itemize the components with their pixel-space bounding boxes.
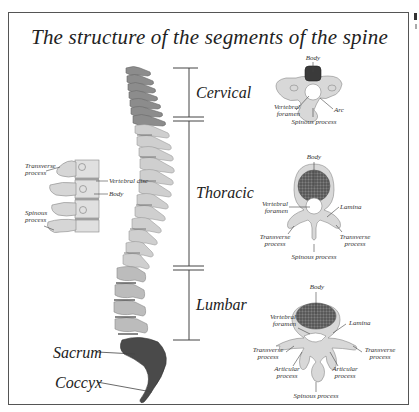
label-side-transverse-process: Transverse process	[25, 163, 57, 177]
label-cervical-arc: Arc	[334, 107, 354, 114]
label-lumbar-transverse-process-right: Transverse process	[362, 347, 398, 361]
label-thoracic-vertebral-foramen: Vertebral foramen	[254, 201, 288, 215]
label-lumbar-transverse-process-left: Transverse process	[250, 347, 286, 361]
label-lumbar-articular-process-right: Articular process	[330, 366, 360, 380]
sacrum-shape	[120, 337, 166, 402]
label-coccyx: Coccyx	[55, 374, 102, 392]
label-cervical-body: Body	[298, 55, 328, 62]
label-lumbar-body: Body	[302, 284, 332, 291]
label-lumbar-vertebral-foramen: Vertebral foramen	[262, 314, 296, 328]
label-cervical-vertebral-foramen: Vertebral foramen	[266, 104, 300, 118]
region-label-cervical: Cervical	[196, 84, 251, 102]
thoracic-vertebra	[288, 162, 343, 252]
label-lumbar-lamina: Lamina	[349, 320, 379, 327]
region-label-thoracic: Thoracic	[196, 184, 254, 202]
label-side-spinous-process: Spinous process	[25, 210, 57, 224]
label-sacrum: Sacrum	[53, 344, 102, 362]
label-lumbar-articular-process-left: Articular process	[272, 366, 302, 380]
label-cervical-spinous-process: Spinous process	[288, 119, 340, 126]
label-thoracic-lamina: Lamina	[340, 204, 370, 211]
label-thoracic-transverse-process-left: Transverse process	[258, 234, 292, 248]
spine-column	[114, 67, 174, 403]
label-side-body: Body	[109, 191, 139, 198]
label-lumbar-spinous-process: Spinous process	[290, 393, 342, 400]
region-label-lumbar: Lumbar	[196, 296, 247, 314]
label-side-vertebral-disc: Vertebral disc	[109, 178, 169, 185]
label-thoracic-spinous-process: Spinous process	[288, 254, 340, 261]
label-thoracic-body: Body	[299, 154, 329, 161]
label-thoracic-transverse-process-right: Transverse process	[338, 234, 372, 248]
